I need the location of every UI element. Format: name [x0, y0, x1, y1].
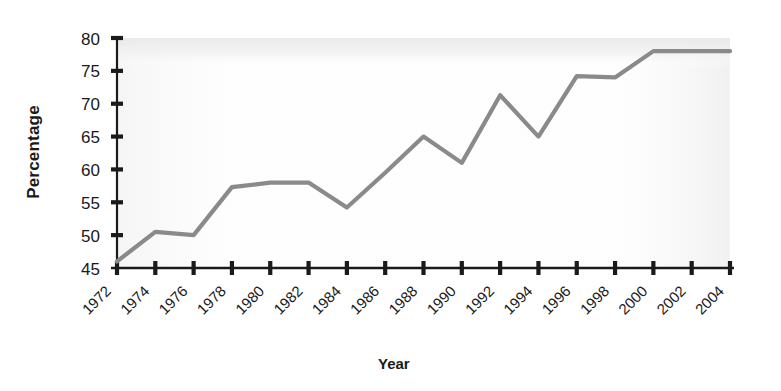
x-tick-label: 1976	[155, 282, 191, 318]
x-tick-label: 1978	[193, 282, 229, 318]
y-tick-labels: 4550556065707580	[81, 30, 100, 279]
x-tick-labels: 1972197419761978198019821984198619881990…	[79, 282, 728, 318]
y-tick-label: 55	[81, 194, 100, 213]
y-tick-label: 60	[81, 161, 100, 180]
x-tick-label: 1994	[500, 282, 536, 318]
y-tick-label: 75	[81, 62, 100, 81]
plot-background	[117, 38, 730, 268]
x-tick-label: 2002	[653, 282, 689, 318]
y-tick-label: 70	[81, 95, 100, 114]
x-tick-label: 1998	[577, 282, 613, 318]
x-tick-label: 1996	[538, 282, 574, 318]
x-tick-label: 1984	[308, 282, 344, 318]
x-tick-label: 1980	[232, 282, 268, 318]
x-tick-label: 1972	[79, 282, 115, 318]
chart-plot-svg: 4550556065707580 19721974197619781980198…	[0, 0, 781, 391]
x-tick-label: 2000	[615, 282, 651, 318]
y-tick-label: 80	[81, 30, 100, 49]
x-tick-label: 1990	[423, 282, 459, 318]
x-tick-label: 2004	[692, 282, 728, 318]
x-tick-label: 1986	[347, 282, 383, 318]
y-tick-label: 65	[81, 128, 100, 147]
line-chart: Percentage Year 4550556065707580 1972197…	[0, 0, 781, 391]
x-tick-label: 1992	[462, 282, 498, 318]
x-tick-label: 1982	[270, 282, 306, 318]
y-tick-label: 45	[81, 260, 100, 279]
x-tick-label: 1988	[385, 282, 421, 318]
y-tick-label: 50	[81, 227, 100, 246]
x-tick-label: 1974	[117, 282, 153, 318]
